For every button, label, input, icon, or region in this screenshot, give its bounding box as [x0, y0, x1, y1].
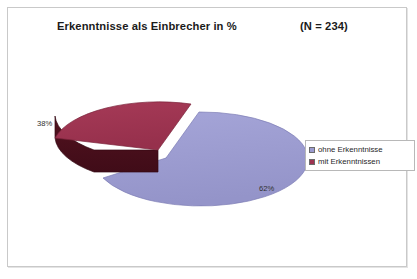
chart-legend: ohne Erkenntnisse mit Erkenntnissen [305, 140, 415, 171]
legend-label: ohne Erkenntnisse [318, 145, 383, 154]
legend-item-ohne-erkenntnisse[interactable]: ohne Erkenntnisse [309, 144, 412, 155]
pie-data-label-red: 38% [37, 119, 52, 128]
legend-swatch-icon-blue [309, 147, 315, 153]
legend-item-mit-erkenntnissen[interactable]: mit Erkenntnissen [309, 156, 412, 167]
pie-data-label-blue: 62% [259, 184, 274, 193]
chart-canvas: Erkenntnisse als Einbrecher in % (N = 23… [0, 0, 417, 279]
legend-label: mit Erkenntnissen [318, 157, 380, 166]
legend-swatch-icon-red [309, 159, 315, 165]
